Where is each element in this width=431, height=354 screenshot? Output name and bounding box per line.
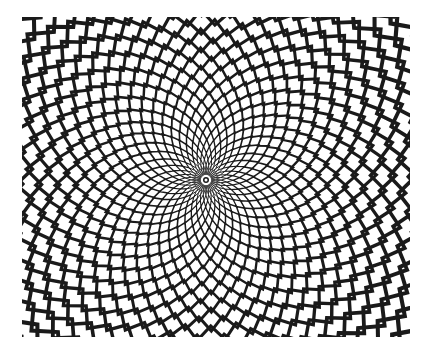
zigzag-rings-pattern [22,17,410,337]
optical-illusion-image [22,17,410,337]
